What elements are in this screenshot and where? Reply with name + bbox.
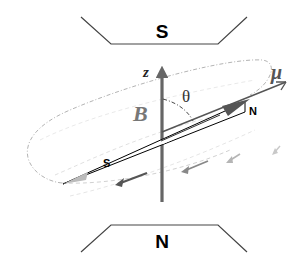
z-axis-label: z [142,64,149,80]
compass-needle [63,99,250,184]
bottom-magnet: N [81,225,247,252]
b-field-label: B [132,101,148,126]
bottom-magnet-label: N [155,231,169,252]
theta-label: θ [182,87,190,106]
arrow-lightest [272,146,280,155]
needle-north-label: N [249,105,257,117]
top-magnet-label: S [156,21,169,42]
mu-label: μ [270,61,282,84]
dipole-precession-diagram: S N z B θ μ [0,0,304,265]
needle-south-label: S [103,157,110,169]
arrow-light [226,154,240,163]
top-magnet: S [81,17,247,44]
precession-orbit [27,60,271,196]
